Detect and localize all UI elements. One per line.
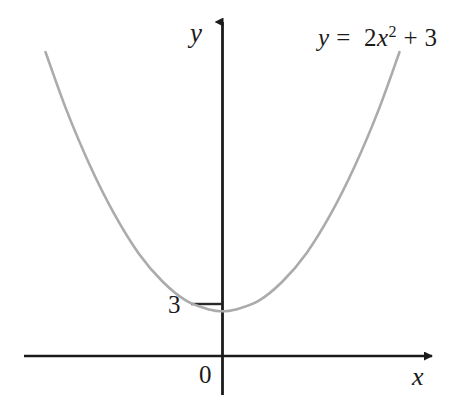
equation-coefficient: 2 (364, 24, 377, 51)
graph-figure: y x 3 0 y = 2x2 + 3 (0, 0, 472, 395)
equation-plus: + (403, 24, 418, 51)
equation-lhs: y (318, 24, 330, 51)
y-intercept-tick-label: 3 (168, 292, 181, 317)
equation-annotation: y = 2x2 + 3 (318, 24, 438, 50)
equation-variable: x (377, 24, 389, 51)
origin-label: 0 (199, 362, 212, 387)
parabola-plot (0, 0, 472, 395)
axis-label-y: y (190, 20, 202, 47)
equation-constant: 3 (425, 24, 438, 51)
equation-equals: = (336, 24, 351, 51)
equation-exponent: 2 (388, 23, 396, 40)
axis-label-x: x (412, 364, 424, 390)
